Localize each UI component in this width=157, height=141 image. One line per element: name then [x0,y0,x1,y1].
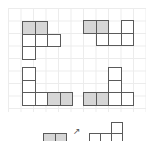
square [108,33,122,47]
square [22,67,36,81]
square [35,34,49,48]
shaded-square [22,21,36,35]
square [108,67,122,81]
shaded-square [96,92,110,106]
shaded-square [96,20,110,34]
shaded-square [83,92,97,106]
square [22,80,36,94]
square [47,34,61,48]
shaded-square [83,20,97,34]
square [22,46,36,60]
square [121,20,135,34]
square [108,92,122,106]
square [22,92,36,106]
square [35,92,49,106]
shaded-square [47,92,61,106]
shaded-square [35,21,49,35]
square [111,133,123,141]
arrow-icon: ↗ [73,127,81,136]
square [96,33,110,47]
square [22,34,36,48]
square [108,80,122,94]
square [121,33,135,47]
square [121,92,135,106]
shaded-square [60,92,74,106]
shaded-square [55,133,68,141]
